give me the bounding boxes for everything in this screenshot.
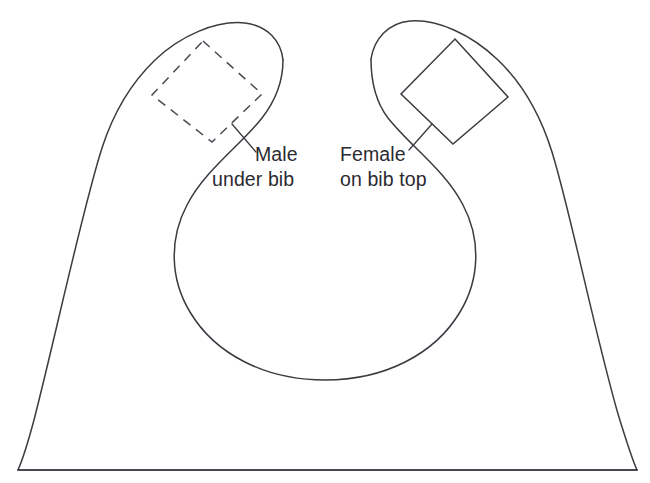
female-leader-line	[409, 124, 432, 150]
male-label-line1: Male	[255, 143, 298, 165]
male-label-line2: under bib	[212, 168, 294, 190]
neck-opening	[174, 59, 476, 380]
bib-pattern-diagram: Male under bib Female on bib top	[0, 0, 650, 483]
female-label-line2: on bib top	[340, 168, 427, 190]
bib-pattern-illustration: Male under bib Female on bib top	[0, 0, 650, 483]
bib-body-outline	[18, 21, 637, 470]
female-label-line1: Female	[340, 143, 406, 165]
male-snap-patch	[152, 41, 262, 142]
